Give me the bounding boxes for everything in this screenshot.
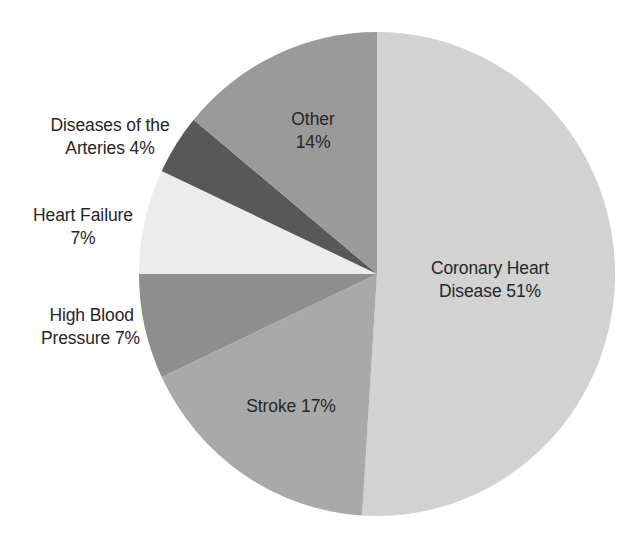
- label-line: Diseases of the: [35, 114, 185, 137]
- label-line: 14%: [268, 131, 358, 154]
- label-heart-failure: Heart Failure 7%: [18, 204, 148, 250]
- label-line: Coronary Heart: [410, 257, 570, 280]
- label-line: Pressure 7%: [0, 327, 140, 350]
- label-high-blood-pressure: High Blood Pressure 7%: [0, 304, 140, 350]
- label-line: Disease 51%: [410, 280, 570, 303]
- label-line: Other: [268, 108, 358, 131]
- label-line: 7%: [18, 227, 148, 250]
- label-other: Other 14%: [268, 108, 358, 154]
- label-line: Heart Failure: [18, 204, 148, 227]
- label-line: Arteries 4%: [35, 137, 185, 160]
- label-coronary-heart-disease: Coronary Heart Disease 51%: [410, 257, 570, 303]
- label-line: Stroke 17%: [226, 395, 356, 418]
- label-diseases-of-the-arteries: Diseases of the Arteries 4%: [35, 114, 185, 160]
- label-line: High Blood: [0, 304, 140, 327]
- label-stroke: Stroke 17%: [226, 395, 356, 418]
